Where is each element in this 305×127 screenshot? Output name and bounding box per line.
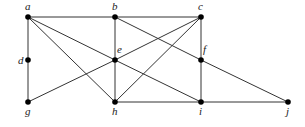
edge-f-j (201, 60, 288, 102)
node-g (25, 99, 31, 105)
node-c (198, 14, 204, 20)
node-label-g: g (25, 105, 31, 117)
node-label-e: e (117, 43, 122, 55)
node-e (112, 57, 118, 63)
node-label-f: f (203, 43, 208, 55)
node-f (198, 57, 204, 63)
edge-e-i (115, 60, 201, 102)
node-label-c: c (198, 0, 203, 12)
node-labels: abcdefghij (18, 0, 289, 117)
node-h (112, 99, 118, 105)
node-i (198, 99, 204, 105)
node-d (25, 57, 31, 63)
node-label-a: a (25, 0, 31, 12)
graph-diagram: abcdefghij (0, 0, 305, 127)
edge-a-e (28, 17, 115, 60)
node-label-d: d (18, 54, 24, 66)
edge-g-e (28, 60, 115, 102)
node-label-j: j (284, 105, 289, 117)
edge-h-c (115, 17, 201, 102)
node-label-i: i (199, 105, 202, 117)
node-label-h: h (112, 105, 118, 117)
edges (28, 17, 288, 102)
node-j (285, 99, 291, 105)
node-b (112, 14, 118, 20)
edge-a-h (28, 17, 115, 102)
node-label-b: b (112, 0, 118, 12)
node-a (25, 14, 31, 20)
